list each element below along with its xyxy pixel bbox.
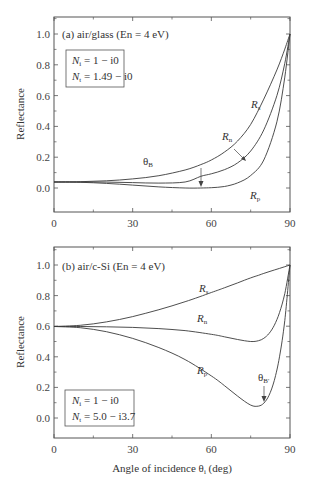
panel-b-legend-line2: Nt = 5.0 − i3.7 bbox=[71, 410, 136, 424]
panel-b: 0.00.20.40.60.81.0 0306090 (b) air/c-Si … bbox=[36, 247, 296, 455]
panel-b-ylabel: Reflectance bbox=[14, 316, 26, 368]
panel-b-legend-line1: Ni = 1 − i0 bbox=[71, 394, 119, 408]
x-tick-label: 60 bbox=[206, 443, 218, 455]
x-tick-label: 0 bbox=[51, 217, 57, 229]
arrowhead-icon bbox=[199, 181, 204, 187]
panel-b-label-rn: Rn bbox=[196, 312, 208, 326]
panel-a-title: (a) air/glass (En = 4 eV) bbox=[62, 28, 169, 41]
panel-a: 0.00.20.40.60.81.0 0306090 (a) air/glass… bbox=[36, 17, 296, 229]
x-tick-label: 90 bbox=[285, 217, 297, 229]
y-tick-label: 0.8 bbox=[36, 290, 50, 302]
panel-a-ylabel: Reflectance bbox=[14, 88, 26, 140]
y-tick-label: 0.6 bbox=[36, 90, 50, 102]
y-tick-label: 0.4 bbox=[36, 120, 50, 132]
panel-a-legend-line1: Ni = 1 − i0 bbox=[71, 54, 119, 68]
y-tick-label: 0.0 bbox=[36, 412, 50, 424]
x-tick-label: 30 bbox=[127, 443, 139, 455]
curve-r-p bbox=[54, 265, 290, 406]
y-tick-label: 1.0 bbox=[36, 28, 50, 40]
y-tick-label: 0.8 bbox=[36, 59, 50, 71]
x-tick-label: 0 bbox=[51, 443, 57, 455]
panel-b-label-rs: Rs bbox=[198, 282, 209, 296]
panel-a-label-rs: Rs bbox=[250, 98, 261, 112]
y-tick-label: 0.2 bbox=[36, 151, 50, 163]
panel-b-label-rp: Rp bbox=[196, 364, 208, 378]
x-tick-label: 30 bbox=[127, 217, 139, 229]
x-tick-label: 60 bbox=[206, 217, 218, 229]
curve-r-s bbox=[54, 265, 290, 327]
y-tick-label: 1.0 bbox=[36, 259, 50, 271]
panel-a-label-rp: Rp bbox=[249, 189, 261, 203]
panel-a-brewster-label: θB bbox=[143, 155, 153, 169]
figure: 0.00.20.40.60.81.0 0306090 (a) air/glass… bbox=[0, 0, 310, 490]
panel-b-brewster-label: θB' bbox=[258, 371, 269, 385]
y-tick-label: 0.0 bbox=[36, 182, 50, 194]
panel-b-title: (b) air/c-Si (En = 4 eV) bbox=[62, 260, 165, 273]
panel-a-label-rn: Rn bbox=[221, 130, 233, 144]
x-axis-label: Angle of incidence θi (deg) bbox=[112, 462, 232, 476]
x-tick-label: 90 bbox=[285, 443, 297, 455]
panel-b-curves bbox=[54, 265, 290, 406]
y-tick-label: 0.6 bbox=[36, 320, 50, 332]
y-tick-label: 0.4 bbox=[36, 351, 50, 363]
y-tick-label: 0.2 bbox=[36, 381, 50, 393]
